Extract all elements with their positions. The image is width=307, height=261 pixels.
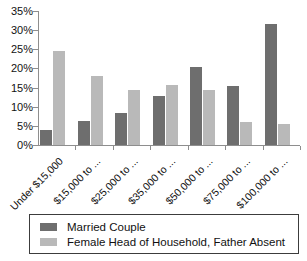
bar [265,24,277,145]
bar [78,121,90,145]
chart-legend: Married Couple Female Head of Household,… [29,214,299,254]
y-tick-mark [33,145,38,146]
bar [115,113,127,145]
y-tick-label: 30% [11,25,33,36]
y-axis: 0%5%10%15%20%25%30%35% [0,0,35,150]
bar [128,90,140,145]
x-axis-line [38,145,300,146]
y-tick-mark [33,68,38,69]
bar-chart: 0%5%10%15%20%25%30%35% Under $15,000$15,… [0,0,307,261]
legend-item-label: Married Couple [67,221,146,233]
y-tick-label: 25% [11,44,33,55]
y-tick-mark [33,107,38,108]
y-tick-mark [33,30,38,31]
y-tick-mark [33,11,38,12]
bar [53,51,65,145]
bar [203,90,215,145]
bar [240,122,252,145]
bars-layer [38,11,300,145]
y-tick-label: 5% [17,120,33,131]
y-tick-mark [33,88,38,89]
legend-swatch-icon [40,223,57,231]
bar [40,130,52,145]
bar [166,85,178,145]
x-axis-labels: Under $15,000$15,000 to ...$25,000 to ..… [0,150,307,212]
y-tick-mark [33,49,38,50]
y-tick-label: 20% [11,63,33,74]
legend-swatch-icon [40,238,57,246]
y-tick-label: 35% [11,6,33,17]
bar [190,67,202,145]
legend-item-label: Female Head of Household, Father Absent [67,236,285,248]
legend-item-female-head-of-household: Female Head of Household, Father Absent [40,236,285,248]
y-tick-label: 10% [11,101,33,112]
y-tick-mark [33,126,38,127]
bar [227,86,239,145]
legend-item-married-couple: Married Couple [40,221,146,233]
y-tick-label: 0% [17,140,33,151]
y-tick-label: 15% [11,82,33,93]
bar [278,124,290,145]
bar [91,76,103,145]
bar [153,96,165,145]
plot-area: 0%5%10%15%20%25%30%35% [0,0,307,150]
